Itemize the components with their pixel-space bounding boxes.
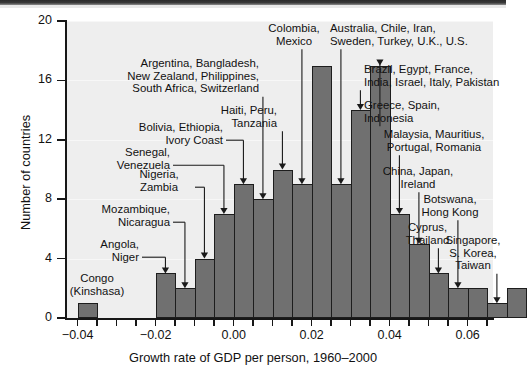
arrowhead-icon — [201, 253, 208, 259]
arrowhead-icon — [435, 267, 442, 273]
arrowhead-icon — [376, 60, 383, 66]
arrowhead-icon — [396, 208, 403, 214]
arrowhead-icon — [298, 178, 305, 184]
arrowhead-icon — [337, 178, 344, 184]
arrowhead-icon — [240, 178, 247, 184]
arrowhead-icon — [357, 104, 364, 110]
arrowhead-icon — [220, 208, 227, 214]
arrowhead-icon — [454, 282, 461, 288]
histogram-bar — [507, 288, 527, 318]
arrowhead-icon — [279, 164, 286, 170]
arrowhead-icon — [162, 267, 169, 273]
arrowhead-icon — [493, 297, 500, 303]
arrowhead-icon — [259, 193, 266, 199]
arrowhead-icon — [415, 238, 422, 244]
x-axis-title: Growth rate of GDP per person, 1960–2000 — [0, 350, 506, 365]
arrowhead-icon — [181, 282, 188, 288]
y-axis-title: Number of countries — [18, 115, 33, 230]
